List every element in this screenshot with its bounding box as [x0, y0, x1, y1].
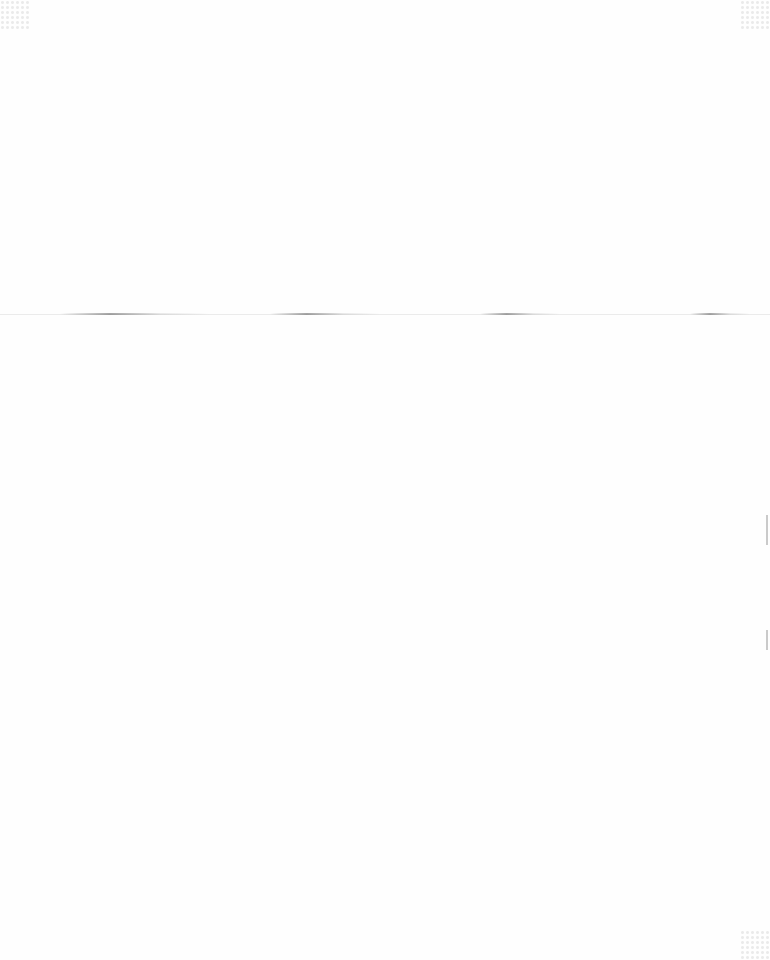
scan-speckle-bottom-right [740, 930, 770, 960]
scan-speckle-top-left [0, 0, 30, 30]
edge-mark [766, 515, 768, 545]
blank-scanned-page [0, 0, 770, 960]
edge-mark [766, 630, 768, 650]
fold-line [0, 313, 770, 316]
scan-speckle-top-right [740, 0, 770, 30]
